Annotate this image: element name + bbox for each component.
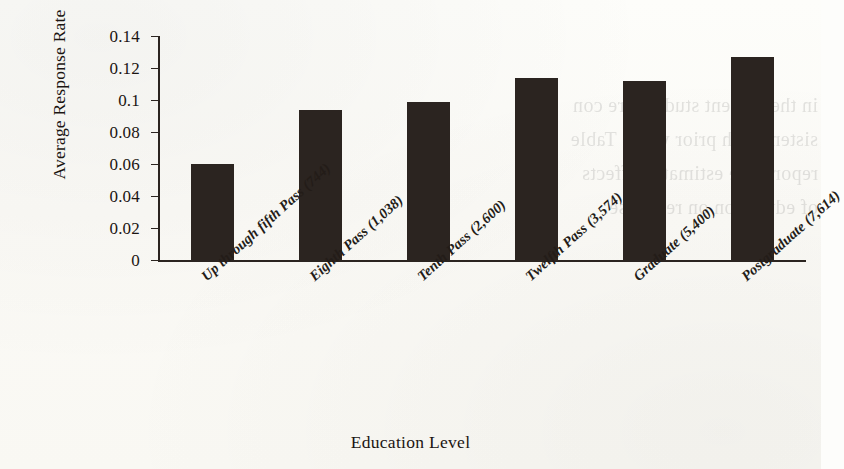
y-tick-mark: 0.08 (151, 132, 158, 133)
y-tick-mark: 0.06 (151, 164, 158, 165)
y-axis-line (158, 36, 160, 260)
y-tick-label: 0.02 (109, 219, 140, 239)
bar (731, 57, 774, 260)
y-tick-label: 0.04 (109, 187, 140, 207)
y-tick-mark: 0.02 (151, 228, 158, 229)
y-tick-label: 0.12 (109, 59, 140, 79)
bar (515, 78, 558, 260)
y-tick-label: 0.08 (109, 123, 140, 143)
y-tick-mark: 0.04 (151, 196, 158, 197)
y-tick-label: 0.1 (118, 91, 140, 111)
y-tick-mark: 0 (151, 260, 158, 261)
y-tick-mark: 0.1 (151, 100, 158, 101)
bar (623, 81, 666, 260)
y-tick-mark: 0.12 (151, 68, 158, 69)
x-axis-line (158, 260, 806, 262)
y-tick-label: 0.06 (109, 155, 140, 175)
y-tick-mark: 0.14 (151, 36, 158, 37)
bar (407, 102, 450, 260)
y-tick-label: 0 (131, 251, 140, 271)
y-tick-label: 0.14 (109, 27, 140, 47)
x-axis-title: Education Level (0, 432, 821, 453)
y-axis-title: Average Response Rate (49, 0, 70, 210)
